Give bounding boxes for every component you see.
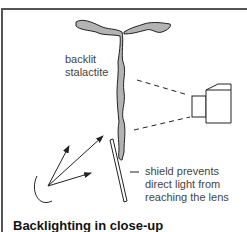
stalactite-label-line2: stalactite bbox=[65, 66, 108, 79]
sightline-lower bbox=[134, 117, 190, 130]
shield-label-line1: shield prevents bbox=[145, 165, 229, 178]
shield-label-line3: reaching the lens bbox=[145, 191, 229, 204]
stalactite-shape bbox=[76, 20, 171, 160]
light-source-arc bbox=[34, 176, 52, 203]
camera-icon bbox=[192, 84, 231, 123]
light-ray-2 bbox=[48, 136, 103, 186]
shield-label-line2: direct light from bbox=[145, 178, 229, 191]
figure-caption: Backlighting in close-up bbox=[13, 218, 163, 232]
shield-label: shield prevents direct light from reachi… bbox=[145, 165, 229, 204]
sightline-upper bbox=[137, 80, 188, 95]
light-ray-1 bbox=[48, 146, 69, 186]
stalactite-label-line1: backlit bbox=[65, 53, 108, 66]
stalactite-label: backlit stalactite bbox=[65, 53, 108, 79]
